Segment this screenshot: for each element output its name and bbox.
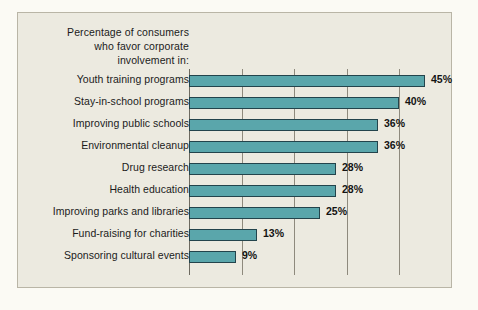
- category-label: Youth training programs: [28, 73, 189, 85]
- bar: [189, 185, 336, 197]
- bar: [189, 75, 425, 87]
- bar-row: 45%: [189, 70, 441, 92]
- bar: [189, 141, 378, 153]
- bar-row: 25%: [189, 202, 441, 224]
- bar-value-label: 28%: [342, 183, 363, 195]
- chart-title-line-3: involvement in:: [28, 53, 189, 67]
- bar: [189, 251, 236, 263]
- chart-figure: Percentage of consumers who favor corpor…: [0, 0, 478, 310]
- category-label: Sponsoring cultural events: [28, 249, 189, 261]
- category-label: Improving public schools: [28, 117, 189, 129]
- bar-row: 36%: [189, 136, 441, 158]
- bar-value-label: 40%: [405, 95, 426, 107]
- bar-row: 9%: [189, 246, 441, 268]
- bar-row: 28%: [189, 158, 441, 180]
- bar-value-label: 45%: [431, 73, 452, 85]
- category-label: Environmental cleanup: [28, 139, 189, 151]
- chart-panel: Percentage of consumers who favor corpor…: [17, 12, 452, 288]
- bar: [189, 97, 399, 109]
- category-axis-labels: Youth training programsStay-in-school pr…: [28, 69, 189, 275]
- category-label: Health education: [28, 183, 189, 195]
- bar-value-label: 13%: [263, 227, 284, 239]
- bar-row: 13%: [189, 224, 441, 246]
- bar-value-label: 28%: [342, 161, 363, 173]
- category-label: Improving parks and libraries: [28, 205, 189, 217]
- category-label: Stay-in-school programs: [28, 95, 189, 107]
- bar-value-label: 36%: [384, 139, 405, 151]
- category-label: Fund-raising for charities: [28, 227, 189, 239]
- bar-row: 28%: [189, 180, 441, 202]
- bar-row: 40%: [189, 92, 441, 114]
- bar-value-label: 9%: [242, 249, 257, 261]
- chart-title-line-1: Percentage of consumers: [28, 25, 189, 39]
- bar-value-label: 36%: [384, 117, 405, 129]
- bar: [189, 119, 378, 131]
- bar-row: 36%: [189, 114, 441, 136]
- chart-title-line-2: who favor corporate: [28, 39, 189, 53]
- bar-value-label: 25%: [326, 205, 347, 217]
- bar: [189, 207, 320, 219]
- plot-area: 45%40%36%36%28%28%25%13%9%: [189, 69, 441, 275]
- chart-title: Percentage of consumers who favor corpor…: [28, 25, 189, 67]
- category-label: Drug research: [28, 161, 189, 173]
- bar: [189, 163, 336, 175]
- bar: [189, 229, 257, 241]
